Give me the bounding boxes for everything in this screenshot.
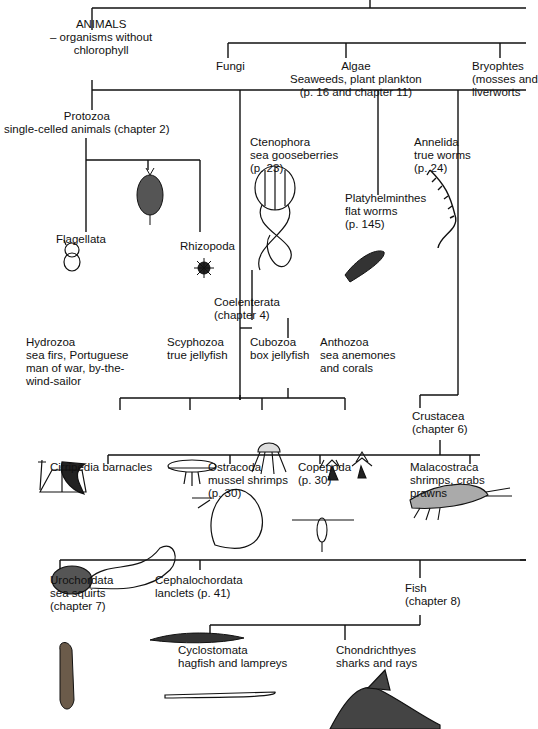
node-coelenterata: Coelenterata (chapter 4): [214, 296, 280, 322]
hydrozoa-line3: man of war, by-the-: [26, 362, 128, 375]
ctenophora-title: Ctenophora: [250, 136, 338, 149]
node-urochordata: Urochordata sea squirts (chapter 7): [50, 574, 113, 613]
flatworm-icon: [345, 251, 384, 282]
node-cubozoa: Cubozoa box jellyfish: [250, 336, 309, 362]
anthozoa-line2: sea anemones: [320, 349, 395, 362]
malacostraca-line3: prawns: [410, 487, 485, 500]
ostracoda-line2: mussel shrimps: [208, 474, 288, 487]
scyphozoa-title: Scyphozoa: [167, 336, 228, 349]
node-protozoa: Protozoa single-celled animals (chapter …: [4, 110, 170, 136]
platyhelminthes-line3: (p. 145): [345, 218, 426, 231]
node-ostracoda: Ostracoda mussel shrimps (p. 30): [208, 461, 288, 500]
node-cirripedia: Cirripedia barnacles: [50, 461, 152, 474]
bryophytes-line3: liverworts: [472, 86, 538, 99]
fish-line2: (chapter 8): [405, 595, 461, 608]
node-bryophytes: Bryophtes (mosses and liverworts: [472, 60, 538, 99]
cyclostomata-title: Cyclostomata: [178, 644, 287, 657]
node-animals: ANIMALS – organisms without chlorophyll: [50, 18, 152, 57]
ostracoda-line3: (p. 30): [208, 487, 288, 500]
node-rhizopoda: Rhizopoda: [180, 240, 235, 253]
urochordata-line2: sea squirts: [50, 587, 113, 600]
sea-squirt-icon: [60, 643, 74, 710]
anthozoa-line3: and corals: [320, 362, 395, 375]
algae-title: Algae: [290, 60, 422, 73]
annelida-title: Annelida: [414, 136, 471, 149]
node-scyphozoa: Scyphozoa true jellyfish: [167, 336, 228, 362]
hydrozoa-line4: wind-sailor: [26, 375, 128, 388]
bryophytes-line2: (mosses and: [472, 73, 538, 86]
ostracoda-title: Ostracoda: [208, 461, 288, 474]
cubozoa-line2: box jellyfish: [250, 349, 309, 362]
malacostraca-title: Malacostraca: [410, 461, 485, 474]
copepod-icon: [292, 518, 354, 552]
node-copepoda: Copepoda (p. 30): [298, 461, 351, 487]
node-cephalochordata: Cephalochordata lanclets (p. 41): [155, 574, 243, 600]
chondrichthyes-title: Chondrichthyes: [336, 644, 417, 657]
platyhelminthes-line2: flat worms: [345, 205, 426, 218]
algae-line2: Seaweeds, plant plankton: [290, 73, 422, 86]
lancelet-icon: [150, 633, 244, 643]
node-anthozoa: Anthozoa sea anemones and corals: [320, 336, 395, 375]
annelida-line3: (p. 24): [414, 162, 471, 175]
cephalochordata-line2: lanclets (p. 41): [155, 587, 243, 600]
spiny-protozoan-icon: [137, 168, 163, 225]
anthozoa-title: Anthozoa: [320, 336, 395, 349]
protozoa-title: Protozoa: [4, 110, 170, 123]
node-cyclostomata: Cyclostomata hagfish and lampreys: [178, 644, 287, 670]
node-malacostraca: Malacostraca shrimps, crabs prawns: [410, 461, 485, 500]
node-chondrichthyes: Chondrichthyes sharks and rays: [336, 644, 417, 670]
node-algae: Algae Seaweeds, plant plankton (p. 16 an…: [290, 60, 422, 99]
fish-title: Fish: [405, 582, 461, 595]
platyhelminthes-title: Platyhelminthes: [345, 192, 426, 205]
node-ctenophora: Ctenophora sea gooseberries (p. 23): [250, 136, 338, 175]
scyphozoa-line2: true jellyfish: [167, 349, 228, 362]
chondrichthyes-line2: sharks and rays: [336, 657, 417, 670]
cubozoa-title: Cubozoa: [250, 336, 309, 349]
shark-icon: [330, 670, 440, 729]
lamprey-icon: [165, 692, 275, 698]
node-crustacea: Crustacea (chapter 6): [412, 410, 468, 436]
annelida-line2: true worms: [414, 149, 471, 162]
algae-line3: (p. 16 and chapter 11): [290, 86, 422, 99]
node-annelida: Annelida true worms (p. 24): [414, 136, 471, 175]
hydrozoa-title: Hydrozoa: [26, 336, 128, 349]
malacostraca-line2: shrimps, crabs: [410, 474, 485, 487]
ctenophora-line2: sea gooseberries: [250, 149, 338, 162]
copepoda-title: Copepoda: [298, 461, 351, 474]
node-fungi: Fungi: [216, 60, 245, 73]
bryophytes-title: Bryophtes: [472, 60, 538, 73]
polychaete-worm-icon: [427, 170, 456, 248]
crustacea-title: Crustacea: [412, 410, 468, 423]
animals-subtitle: – organisms without: [50, 31, 152, 44]
node-hydrozoa: Hydrozoa sea firs, Portuguese man of war…: [26, 336, 128, 388]
node-fish: Fish (chapter 8): [405, 582, 461, 608]
rhizopod-icon: [194, 258, 214, 278]
crustacea-line2: (chapter 6): [412, 423, 468, 436]
ctenophora-line3: (p. 23): [250, 162, 338, 175]
hydrozoa-line2: sea firs, Portuguese: [26, 349, 128, 362]
comb-jelly-icon: [255, 166, 295, 270]
coelenterata-title: Coelenterata: [214, 296, 280, 309]
animals-title: ANIMALS: [50, 18, 152, 31]
urochordata-line3: (chapter 7): [50, 600, 113, 613]
cyclostomata-line2: hagfish and lampreys: [178, 657, 287, 670]
coelenterata-line2: (chapter 4): [214, 309, 280, 322]
animals-subtitle2: chlorophyll: [50, 44, 152, 57]
copepoda-line2: (p. 30): [298, 474, 351, 487]
protozoa-line2: single-celled animals (chapter 2): [4, 123, 170, 136]
node-flagellata: Flagellata: [56, 233, 106, 246]
urochordata-title: Urochordata: [50, 574, 113, 587]
node-platyhelminthes: Platyhelminthes flat worms (p. 145): [345, 192, 426, 231]
cephalochordata-title: Cephalochordata: [155, 574, 243, 587]
